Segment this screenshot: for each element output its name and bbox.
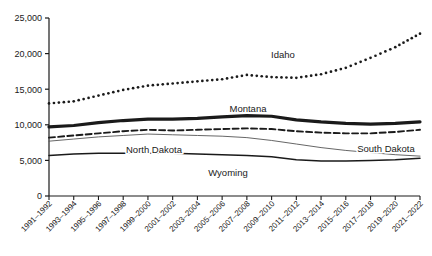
data-point — [112, 91, 115, 94]
data-point — [374, 54, 377, 57]
data-point — [156, 83, 159, 86]
data-point — [285, 76, 288, 79]
data-point — [325, 72, 328, 75]
data-point — [176, 82, 179, 85]
data-point — [102, 93, 105, 96]
series-label-north-dakota: North Dakota — [126, 144, 183, 155]
data-point — [402, 41, 405, 44]
series-label-wyoming: Wyoming — [208, 167, 248, 178]
data-point — [77, 99, 80, 102]
data-point — [265, 75, 268, 78]
data-point — [191, 80, 194, 83]
data-point — [415, 35, 418, 38]
y-axis-tick-label: 15,000 — [14, 85, 42, 95]
y-axis-tick-label: 5,000 — [19, 156, 42, 166]
data-point — [211, 79, 214, 82]
data-point — [117, 90, 120, 93]
data-point — [340, 68, 343, 71]
data-point — [206, 79, 209, 82]
data-point — [87, 97, 90, 100]
data-point — [107, 92, 110, 95]
data-point — [398, 44, 401, 47]
data-point — [147, 84, 150, 87]
data-point — [137, 86, 140, 89]
data-point — [236, 75, 239, 78]
data-point — [72, 100, 75, 103]
data-point — [132, 87, 135, 90]
data-point — [419, 32, 422, 35]
data-point — [410, 37, 413, 40]
data-point — [53, 102, 56, 105]
data-point — [315, 74, 318, 77]
data-point — [354, 63, 357, 66]
data-point — [122, 89, 125, 92]
series-label-montana: Montana — [230, 103, 268, 114]
data-point — [255, 74, 258, 77]
data-point — [166, 83, 169, 86]
data-point — [216, 78, 219, 81]
data-point — [241, 74, 244, 77]
data-point — [344, 66, 347, 69]
data-point — [196, 80, 199, 83]
data-point — [186, 81, 189, 84]
series-montana — [49, 116, 420, 127]
data-point — [226, 77, 229, 80]
data-point — [406, 39, 409, 42]
series-label-south-dakota: South Dakota — [357, 143, 415, 154]
y-axis-tick-label: 20,000 — [14, 49, 42, 59]
data-point — [67, 100, 70, 103]
chart-container: 05,00010,00015,00020,00025,0001991–19921… — [0, 0, 432, 256]
data-point — [92, 95, 95, 98]
data-point — [275, 76, 278, 79]
data-point — [246, 74, 249, 77]
data-point — [58, 101, 61, 104]
data-point — [280, 76, 283, 79]
data-point — [201, 80, 204, 83]
data-point — [384, 50, 387, 53]
data-point — [359, 61, 362, 64]
data-point — [389, 48, 392, 51]
series-label-idaho: Idaho — [271, 49, 295, 60]
data-point — [270, 76, 273, 79]
data-point — [82, 98, 85, 101]
data-point — [181, 81, 184, 84]
data-point — [310, 74, 313, 77]
data-point — [161, 83, 164, 86]
data-point — [300, 76, 303, 79]
data-point — [369, 57, 372, 60]
data-point — [221, 78, 224, 81]
data-point — [379, 52, 382, 55]
data-point — [152, 84, 155, 87]
series-wyoming — [49, 153, 420, 161]
data-point — [349, 65, 352, 68]
y-axis-tick-label: 0 — [37, 191, 42, 201]
data-point — [250, 74, 253, 77]
line-chart: 05,00010,00015,00020,00025,0001991–19921… — [0, 0, 432, 256]
data-point — [295, 76, 298, 79]
data-point — [127, 88, 130, 91]
data-point — [97, 94, 100, 97]
data-point — [62, 101, 65, 104]
data-point — [231, 76, 234, 79]
data-point — [364, 59, 367, 62]
data-point — [290, 76, 293, 79]
data-point — [320, 73, 323, 76]
y-axis-tick-label: 10,000 — [14, 120, 42, 130]
data-point — [142, 85, 145, 88]
data-point — [260, 75, 263, 78]
series-idaho — [48, 32, 422, 104]
data-point — [330, 70, 333, 73]
data-point — [394, 46, 397, 49]
data-point — [171, 82, 174, 85]
data-point — [335, 69, 338, 72]
data-point — [305, 75, 308, 78]
data-point — [48, 102, 51, 105]
y-axis-tick-label: 25,000 — [14, 13, 42, 23]
